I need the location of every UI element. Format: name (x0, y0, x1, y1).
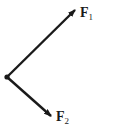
label-f1: F1 (80, 6, 93, 22)
label-f2-main: F (56, 109, 65, 124)
vector-f2-arrow (7, 77, 51, 116)
label-f2-sub: 2 (65, 116, 70, 126)
label-f2: F2 (56, 110, 69, 126)
vector-f1-arrow (7, 10, 75, 77)
force-diagram (0, 0, 134, 127)
origin-point (4, 74, 9, 79)
label-f1-main: F (80, 5, 89, 20)
label-f1-sub: 1 (89, 12, 94, 22)
